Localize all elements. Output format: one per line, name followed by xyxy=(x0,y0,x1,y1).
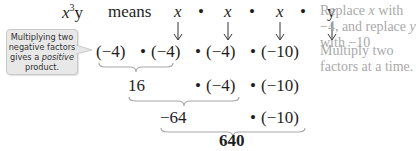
variable-y: y xyxy=(75,3,84,22)
note-multiply: Multiply two factors at a time. xyxy=(320,43,416,75)
step2-factor-2: (−10) xyxy=(261,76,299,96)
dot: • xyxy=(140,42,146,62)
down-arrow-icon xyxy=(173,22,183,42)
callout-text: gives a xyxy=(10,52,42,62)
final-result: 640 xyxy=(219,131,245,151)
note-text: Replace xyxy=(320,3,369,18)
dot-1: • xyxy=(198,2,204,22)
dot: • xyxy=(250,108,256,128)
product-neg64: −64 xyxy=(160,108,187,128)
dot-3: • xyxy=(300,2,306,22)
factor-x-2: x xyxy=(224,2,232,22)
sub-factor-2: (−4) xyxy=(151,42,180,62)
sub-factor-3: (−4) xyxy=(206,42,235,62)
callout-pointer-icon xyxy=(76,44,94,56)
callout-box: Multiplying two negative factors gives a… xyxy=(6,29,78,75)
down-arrow-icon xyxy=(223,22,233,42)
means-label: means xyxy=(108,2,151,22)
callout-line: product. xyxy=(7,62,77,72)
dot: • xyxy=(250,42,256,62)
down-arrow-icon xyxy=(275,22,285,42)
callout-emphasis: positive xyxy=(42,52,74,62)
sub-factor-4: (−10) xyxy=(261,42,299,62)
dot: • xyxy=(195,76,201,96)
factor-x-1: x xyxy=(174,2,182,22)
callout-line: Multiplying two xyxy=(7,32,77,42)
sub-factor-1: (−4) xyxy=(96,42,125,62)
variable-x: x xyxy=(62,3,70,22)
underbrace xyxy=(98,62,174,74)
underbrace xyxy=(128,96,240,108)
note-var: y xyxy=(410,19,416,34)
product-16: 16 xyxy=(128,76,145,96)
dot: • xyxy=(250,76,256,96)
callout-line: gives a positive xyxy=(7,52,77,62)
factor-x-3: x xyxy=(276,2,284,22)
step2-factor-1: (−4) xyxy=(206,76,235,96)
callout-line: negative factors xyxy=(7,42,77,52)
step3-factor-1: (−10) xyxy=(261,108,299,128)
expression-term: x3y xyxy=(62,2,83,23)
dot-2: • xyxy=(249,2,255,22)
dot: • xyxy=(195,42,201,62)
